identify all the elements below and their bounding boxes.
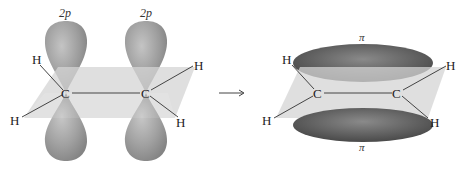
- hydrogen-atom: H: [10, 113, 19, 128]
- carbon-atom: C: [61, 86, 70, 101]
- hydrogen-atom: H: [32, 52, 41, 67]
- hydrogen-atom: H: [262, 113, 271, 128]
- hydrogen-atom: H: [430, 115, 439, 130]
- carbon-atom: C: [392, 86, 401, 101]
- hydrogen-atom: H: [282, 52, 291, 67]
- pi-bond-label: π: [359, 141, 365, 153]
- pi-orbital-lobe-lower: [293, 108, 433, 142]
- ethylene-pi-bond-diagram: C C H H H H 2p 2p C C H H H H: [0, 0, 468, 169]
- orbital-label-2p: 2p: [140, 6, 152, 20]
- hydrogen-atom: H: [194, 58, 203, 73]
- plane-overlay-left: [24, 93, 175, 118]
- hydrogen-atom: H: [446, 58, 455, 73]
- carbon-atom: C: [141, 86, 150, 101]
- pi-bond-label: π: [359, 31, 365, 43]
- right-panel: C C H H H H π π: [262, 31, 455, 153]
- left-panel: C C H H H H 2p 2p: [10, 6, 203, 161]
- hydrogen-atom: H: [176, 115, 185, 130]
- carbon-atom: C: [313, 86, 322, 101]
- orbital-label-2p: 2p: [59, 6, 71, 20]
